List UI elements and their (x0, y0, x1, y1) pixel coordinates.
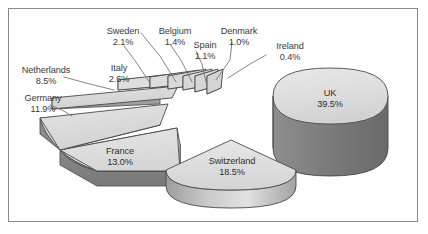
pie-slice-uk[interactable] (273, 68, 388, 176)
slice-label-sweden-pct: 2.1% (96, 37, 150, 48)
slice-label-germany: Germany 11.9% (10, 93, 76, 114)
pie-chart-figure: Germany 11.9% Netherlands 8.5% Italy 2.6… (0, 0, 428, 234)
slice-label-switzerland-name: Switzerland (194, 156, 270, 167)
slice-label-sweden: Sweden 2.1% (96, 26, 150, 47)
slice-label-germany-name: Germany (10, 93, 76, 104)
leader-line-ireland (228, 55, 266, 78)
slice-label-uk: UK 39.5% (307, 88, 353, 110)
slice-label-netherlands: Netherlands 8.5% (8, 65, 84, 86)
slice-label-uk-name: UK (307, 88, 353, 99)
slice-label-italy: Italy 2.6% (98, 63, 140, 84)
slice-label-france-pct: 13.0% (94, 157, 146, 168)
slice-label-ireland: Ireland 0.4% (266, 41, 314, 62)
slice-label-denmark: Denmark 1.0% (212, 26, 266, 47)
slice-label-uk-pct: 39.5% (307, 99, 353, 110)
slice-label-italy-name: Italy (98, 63, 140, 74)
slice-label-france: France 13.0% (94, 146, 146, 168)
slice-label-belgium-name: Belgium (149, 26, 201, 37)
slice-label-spain-pct: 1.1% (185, 51, 225, 62)
slice-label-denmark-name: Denmark (212, 26, 266, 37)
slice-label-france-name: France (94, 146, 146, 157)
slice-label-ireland-name: Ireland (266, 41, 314, 52)
slice-label-netherlands-pct: 8.5% (8, 76, 84, 87)
slice-label-denmark-pct: 1.0% (212, 37, 266, 48)
slice-label-sweden-name: Sweden (96, 26, 150, 37)
slice-label-netherlands-name: Netherlands (8, 65, 84, 76)
slice-label-ireland-pct: 0.4% (266, 52, 314, 63)
slice-label-germany-pct: 11.9% (10, 104, 76, 115)
slice-label-switzerland-pct: 18.5% (194, 167, 270, 178)
slice-label-switzerland: Switzerland 18.5% (194, 156, 270, 178)
slice-label-italy-pct: 2.6% (98, 74, 140, 85)
